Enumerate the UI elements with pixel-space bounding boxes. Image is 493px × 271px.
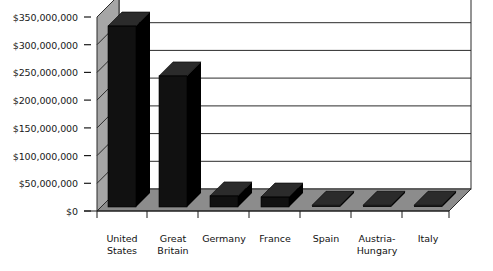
x-axis-tick-label: France [250, 233, 300, 245]
bar-chart: $0 $50,000,000 $100,000,000 $150,000,000… [0, 0, 493, 271]
x-axis-tick-label: United States [97, 233, 147, 256]
x-axis-tick-label: Austria- Hungary [348, 233, 406, 256]
x-axis: United States Great Britain Germany Fran… [0, 0, 493, 271]
x-axis-tick-label: Germany [197, 233, 251, 245]
x-axis-tick-label: Great Britain [148, 233, 198, 256]
x-axis-tick-label: Spain [301, 233, 351, 245]
x-axis-tick-label: Italy [403, 233, 453, 245]
